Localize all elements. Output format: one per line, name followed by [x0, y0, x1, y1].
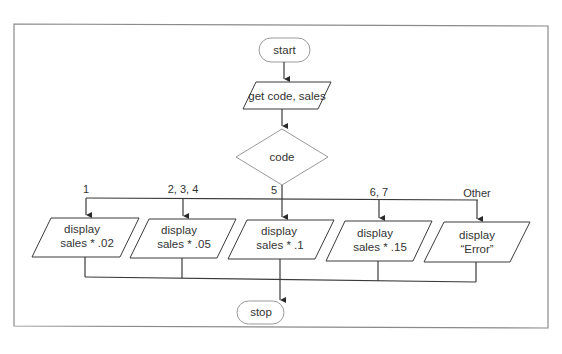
branch-label-2-3-4: 2, 3, 4 [168, 183, 199, 195]
output-line1: display [357, 227, 393, 239]
decision-label: code [270, 151, 295, 163]
output-line1: display [261, 225, 297, 237]
output-sales-1: display sales * .1 [228, 220, 334, 259]
branch-label-other: Other [463, 187, 491, 199]
output-sales-05: display sales * .05 [130, 219, 236, 258]
input-label: get code, sales [248, 90, 326, 102]
branch-label-6-7: 6, 7 [370, 186, 388, 198]
output-line1: display [459, 229, 495, 241]
output-sales-15: display sales * .15 [326, 221, 432, 261]
start-label: start [273, 44, 296, 56]
output-line2: sales * .1 [256, 239, 303, 251]
output-line2: sales * .02 [60, 237, 114, 249]
branch-label-1: 1 [83, 183, 89, 195]
stop-label: stop [250, 306, 272, 318]
output-line2: sales * .05 [157, 238, 211, 250]
output-sales-02: display sales * .02 [32, 218, 139, 257]
output-line1: display [64, 223, 100, 235]
input-get-code-sales: get code, sales [243, 82, 331, 109]
flowchart: start get code, sales code 1 2, 3, 4 5 6… [0, 0, 562, 354]
output-line2: “Error” [460, 243, 493, 255]
start-terminal: start [259, 38, 310, 62]
output-line2: sales * .15 [353, 241, 407, 253]
output-line1: display [161, 224, 197, 236]
branch-label-5: 5 [271, 184, 277, 196]
stop-terminal: stop [237, 301, 284, 324]
